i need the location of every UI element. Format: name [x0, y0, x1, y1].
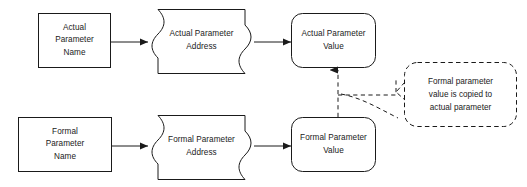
node-actual-parameter-address [152, 10, 251, 74]
edge-callout-leader-upper [338, 77, 396, 95]
diagram-canvas: Actual Parameter Name Actual Parameter A… [0, 0, 527, 187]
callout-line: value is copied to [429, 88, 492, 101]
callout-line: Formal parameter [428, 75, 493, 88]
node-actual-parameter-name [39, 14, 111, 68]
label-callout-copy-note: Formal parameter value is copied to actu… [404, 62, 517, 127]
node-formal-parameter-value [292, 118, 376, 172]
callout-line: actual parameter [430, 101, 491, 114]
node-actual-parameter-value [292, 14, 376, 68]
edge-callout-leader-curve [341, 94, 398, 118]
node-formal-parameter-address [152, 116, 251, 180]
node-formal-parameter-name [19, 118, 112, 172]
